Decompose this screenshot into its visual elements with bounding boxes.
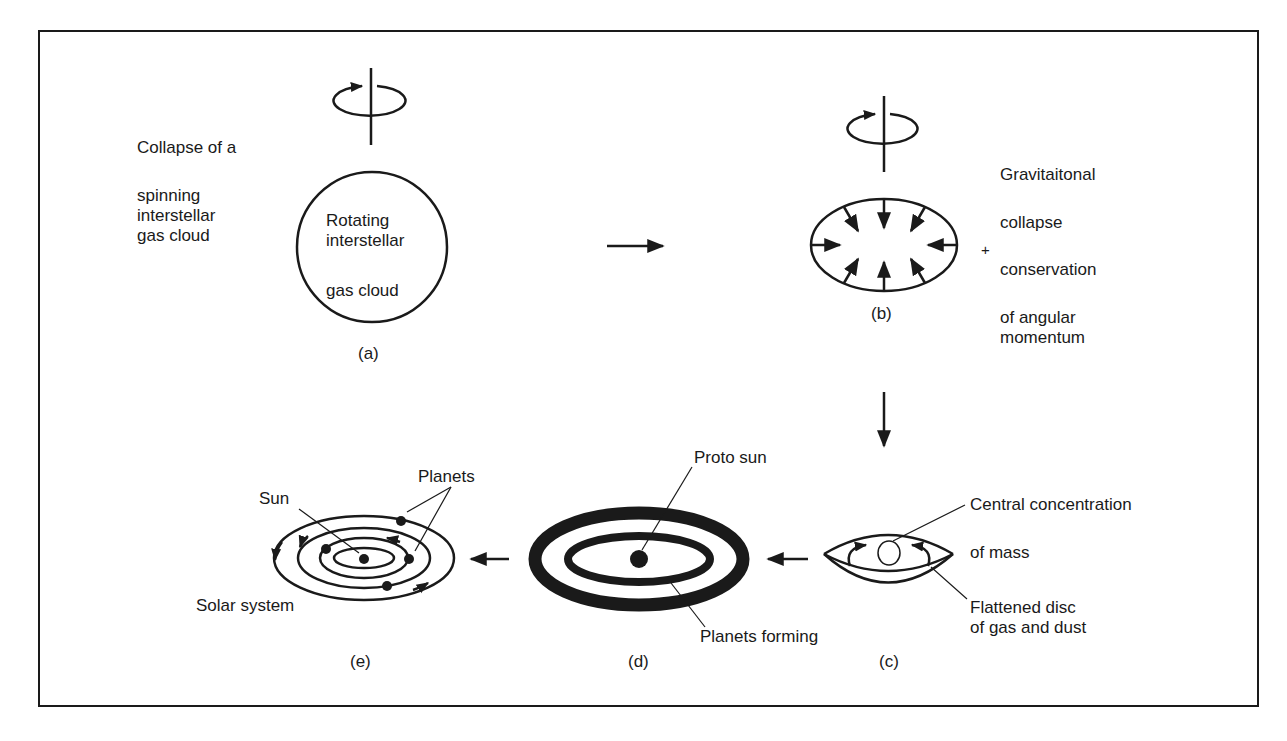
stage-e-caption: (e) xyxy=(350,652,371,672)
stage-b-caption: (b) xyxy=(871,304,892,324)
stage-b-line2: collapse xyxy=(1000,213,1062,233)
stage-a-title-line2: spinning xyxy=(137,186,200,206)
stage-c-caption: (c) xyxy=(879,652,899,672)
stage-c-flattened-disc xyxy=(824,535,953,583)
stage-b-plus: + xyxy=(981,240,990,260)
stage-b-line5: momentum xyxy=(1000,328,1085,348)
stage-a-title-line4: gas cloud xyxy=(137,226,210,246)
stage-b-rotation-axis-icon xyxy=(848,96,918,172)
stage-a-inner-line3: gas cloud xyxy=(326,281,399,301)
leader-flattened-disc xyxy=(931,567,967,599)
stage-c-label-bottom-line1: Flattened disc xyxy=(970,598,1076,618)
stage-e-label-solar-system: Solar system xyxy=(196,596,294,616)
stage-d-label-proto-sun: Proto sun xyxy=(694,448,767,468)
stage-c-label-top-line1: Central concentration xyxy=(970,495,1132,515)
stage-d-caption: (d) xyxy=(628,652,649,672)
stage-a-rotation-axis-icon xyxy=(334,68,406,145)
stage-b-line4: of angular xyxy=(1000,308,1076,328)
stage-d-label-planets-forming: Planets forming xyxy=(700,627,818,647)
stage-e-label-sun: Sun xyxy=(259,489,289,509)
stage-d-protoplanetary-disc xyxy=(535,513,743,605)
stage-b-collapsing-cloud xyxy=(811,199,957,291)
leader-central-mass xyxy=(893,505,965,541)
stage-b-line3: conservation xyxy=(1000,260,1096,280)
stage-a-inner-line1: Rotating xyxy=(326,211,389,231)
stage-a-title-line1: Collapse of a xyxy=(137,138,236,158)
diagram-artwork xyxy=(0,0,1287,741)
stage-e-label-planets: Planets xyxy=(418,467,475,487)
stage-a-title-line3: interstellar xyxy=(137,206,215,226)
stage-a-inner-line2: interstellar xyxy=(326,231,404,251)
stage-b-line1: Gravitaitonal xyxy=(1000,165,1095,185)
stage-c-label-top-line2: of mass xyxy=(970,543,1030,563)
stage-c-label-bottom-line2: of gas and dust xyxy=(970,618,1086,638)
stage-a-caption: (a) xyxy=(358,344,379,364)
